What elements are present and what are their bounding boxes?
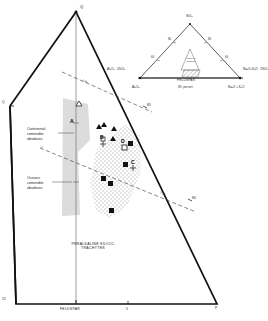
inset-tick-right-60 — [220, 60, 223, 61]
point-label-a: A — [70, 119, 74, 124]
apex-marker — [75, 11, 78, 14]
inset-tick-right-60-label: 60 — [225, 56, 228, 59]
inset-left-vertex-label: Al2O3 — [132, 86, 139, 89]
stippled-field — [90, 124, 141, 218]
inset-apex-dot — [189, 23, 191, 25]
inset-tick-right-80-label: 80 — [208, 38, 211, 41]
left-bottom-label: 15 — [2, 298, 6, 302]
inset-base-label: FELDSPAR — [177, 79, 195, 82]
inset-triangle-group — [138, 23, 243, 79]
peralkaline-field-label: PERALKALINE SILICIC TRACHYTES — [58, 243, 128, 251]
inset-right-dot — [239, 77, 241, 79]
ternary-diagram-figure: Q Q 15 FELDSPAR 5 P 85 80 PERALKALINE SI… — [0, 0, 268, 321]
bottom-right-label: P — [215, 307, 217, 311]
oceanic-obsidians-label: Oceanic comendite obsidians — [27, 176, 61, 191]
symbol-triangle-filled — [96, 124, 102, 129]
symbol-square-open — [122, 145, 127, 150]
inset-left-dot — [139, 77, 141, 79]
inset-left-side-label: Al2O3 · 2SiO2 — [107, 68, 125, 71]
apex-label: Q — [80, 5, 83, 9]
inset-hatched-field — [182, 70, 200, 77]
inset-tick-left-80 — [173, 42, 176, 43]
inset-tick-right-80 — [204, 42, 207, 43]
symbol-square-filled — [101, 176, 106, 181]
inset-tick-left-60 — [157, 60, 160, 61]
inset-apex-label: SiO2 — [186, 15, 193, 18]
inset-right-side-label: Na2O+K2O · 2SiO2 — [243, 68, 268, 71]
point-label-c: C — [131, 160, 135, 165]
left-corner-label: Q — [2, 101, 5, 105]
right-tick-lower-label: 80 — [192, 197, 196, 201]
point-label-d: D — [121, 139, 125, 144]
bottom-center-label: FELDSPAR — [60, 308, 80, 312]
inset-magma-range-label: range of magmas — [181, 58, 201, 63]
symbol-square-filled — [128, 141, 133, 146]
inset-axis-caption: Wt. percent — [178, 86, 193, 89]
symbol-square-filled — [109, 208, 114, 213]
point-label-b: B — [100, 135, 104, 140]
right-tick-upper-label: 85 — [147, 104, 151, 108]
symbol-triangle-filled — [101, 122, 107, 127]
triangle-left-edge — [10, 106, 16, 304]
bottom-mid-tick-label: 5 — [126, 308, 128, 312]
inset-tick-left-80-label: 80 — [168, 38, 171, 41]
symbol-square-filled — [108, 181, 113, 186]
inset-right-vertex-label: Na2O + K2O — [228, 86, 244, 89]
symbol-square-filled — [123, 162, 128, 167]
continental-obsidians-label: Continental comendite obsidians — [27, 127, 61, 142]
inset-tick-left-60-label: 60 — [151, 56, 154, 59]
symbol-triangle-filled — [111, 126, 117, 131]
